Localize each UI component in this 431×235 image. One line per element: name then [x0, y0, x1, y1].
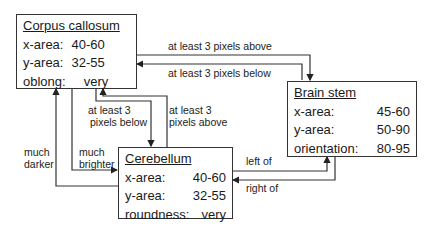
attr-value: 50-90 [377, 121, 410, 140]
attr-row: x-area:45-60 [294, 103, 410, 122]
attr-value: 40-60 [71, 36, 104, 55]
attr-value: 40-60 [193, 169, 226, 188]
edge-label-above-line2: pixels above [169, 116, 227, 128]
attr-row: y-area:32-55 [125, 187, 226, 206]
node-brain-stem: Brain stem x-area:45-60 y-area:50-90 ori… [287, 81, 417, 157]
attr-key: orientation: [294, 140, 358, 159]
attr-key: y-area: [23, 54, 63, 73]
edge-label-right-of: right of [246, 182, 278, 194]
attr-key: x-area: [23, 36, 63, 55]
attr-key: oblong: [23, 73, 66, 92]
attr-row: y-area:32-55 [23, 54, 130, 73]
attr-key: roundness: [125, 206, 189, 225]
edge-label-cc-to-bs: at least 3 pixels above [168, 40, 272, 52]
edge-label-above-line1: at least 3 [169, 104, 212, 116]
edge-label-below-line1: at least 3 [88, 104, 131, 116]
edge-label-below-line2: pixels below [90, 116, 147, 128]
attr-row: orientation:80-95 [294, 140, 410, 159]
attr-key: x-area: [125, 169, 165, 188]
attr-row: x-area:40-60 [23, 36, 130, 55]
attr-value: very [84, 73, 109, 92]
edge-label-left-of: left of [246, 155, 272, 167]
attr-row: y-area:50-90 [294, 121, 410, 140]
edge-label-brighter-line1: much [79, 146, 105, 158]
edge-label-bs-to-cc: at least 3 pixels below [168, 67, 271, 79]
attr-key: x-area: [294, 103, 334, 122]
edge-label-darker-line1: much [24, 146, 50, 158]
attr-row: roundness:very [125, 206, 226, 225]
edge-label-brighter-line2: brighter [79, 158, 115, 170]
attr-value: 45-60 [377, 103, 410, 122]
attr-key: y-area: [294, 121, 334, 140]
attr-row: oblong:very [23, 73, 130, 92]
node-cerebellum: Cerebellum x-area:40-60 y-area:32-55 rou… [118, 147, 233, 219]
attr-value: 32-55 [71, 54, 104, 73]
edge-label-darker-line2: darker [24, 158, 54, 170]
attr-value: very [201, 206, 226, 225]
node-title: Corpus callosum [23, 17, 130, 36]
node-title: Cerebellum [125, 150, 226, 169]
attr-value: 80-95 [377, 140, 410, 159]
attr-key: y-area: [125, 187, 165, 206]
node-corpus-callosum: Corpus callosum x-area:40-60 y-area:32-5… [16, 14, 137, 89]
attr-value: 32-55 [193, 187, 226, 206]
node-title: Brain stem [294, 84, 410, 103]
attr-row: x-area:40-60 [125, 169, 226, 188]
